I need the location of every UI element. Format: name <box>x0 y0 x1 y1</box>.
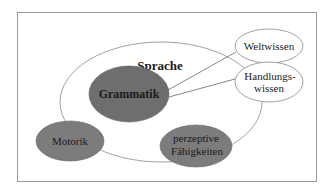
grammatik-label: Grammatik <box>99 87 160 101</box>
perzeptive-label-line1: perzeptive <box>173 132 219 144</box>
perzeptive-label-line2: Fähigkeiten <box>171 145 223 157</box>
handlungswissen-label-line1: Handlungs- <box>244 70 296 82</box>
language-model-diagram: Weltwissen Handlungs- wissen Sprache Gra… <box>0 0 332 193</box>
weltwissen-label: Weltwissen <box>244 40 295 52</box>
handlungswissen-label-line2: wissen <box>254 82 284 94</box>
motorik-label: Motorik <box>52 135 89 147</box>
